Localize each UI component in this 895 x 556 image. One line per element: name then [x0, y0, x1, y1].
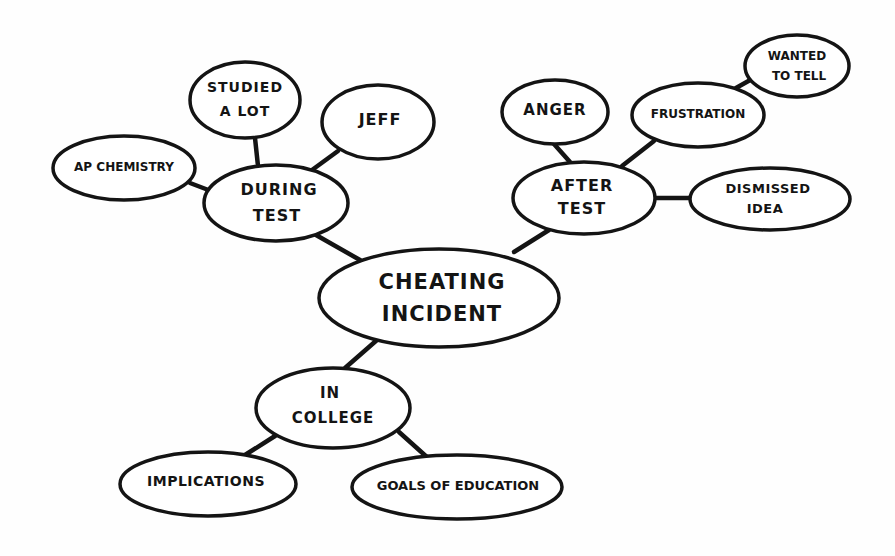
node-shape [190, 62, 300, 138]
edge-center-in-college [345, 340, 377, 368]
node-label-line-2: TO TELL [772, 69, 827, 83]
node-label-line-1: DISMISSED [725, 181, 810, 196]
edge-center-during-test [316, 235, 360, 260]
node-cheating-incident[interactable]: CHEATING INCIDENT [319, 249, 559, 347]
edge-in-college-implications [245, 436, 275, 455]
node-label-line-1: AFTER [551, 176, 613, 195]
edge-center-after-test [514, 230, 549, 252]
node-label-line-2: COLLEGE [292, 409, 375, 427]
node-label-line-2: TEST [253, 206, 301, 225]
node-label-line-2: INCIDENT [382, 302, 502, 326]
node-label: FRUSTRATION [651, 107, 746, 121]
node-label: GOALS OF EDUCATION [377, 478, 540, 493]
node-label-line-1: DURING [240, 180, 317, 199]
node-label-line-1: CHEATING [379, 270, 506, 294]
node-anger[interactable]: ANGER [502, 80, 608, 144]
node-label-line-2: A LOT [220, 103, 271, 119]
node-jeff[interactable]: JEFF [322, 85, 434, 159]
mind-map-canvas: CHEATING INCIDENT DURING TEST AP CHEMIST… [0, 0, 895, 556]
node-label: ANGER [523, 101, 586, 119]
edge-in-college-goals-of-education [399, 432, 428, 458]
mind-map-diagram: CHEATING INCIDENT DURING TEST AP CHEMIST… [0, 0, 895, 556]
edge-during-test-jeff [312, 151, 338, 170]
node-label: AP CHEMISTRY [74, 160, 174, 174]
node-label: IMPLICATIONS [147, 473, 265, 489]
node-dismissed-idea[interactable]: DISMISSED IDEA [690, 168, 850, 230]
edge-after-test-anger [554, 144, 570, 162]
node-frustration[interactable]: FRUSTRATION [632, 83, 764, 147]
node-during-test[interactable]: DURING TEST [204, 165, 348, 241]
node-after-test[interactable]: AFTER TEST [513, 162, 655, 234]
node-wanted-to-tell[interactable]: WANTED TO TELL [745, 35, 849, 97]
node-label-line-2: TEST [558, 199, 606, 218]
node-label-line-1: IN [320, 384, 340, 402]
node-in-college[interactable]: IN COLLEGE [256, 368, 410, 448]
node-label-line-1: STUDIED [207, 79, 283, 95]
node-shape [690, 168, 850, 230]
node-label-line-1: WANTED [768, 49, 826, 63]
node-shape [745, 35, 849, 97]
edge-after-test-frustration [622, 141, 654, 166]
node-studied-a-lot[interactable]: STUDIED A LOT [190, 62, 300, 138]
node-shape [204, 165, 348, 241]
node-shape [319, 249, 559, 347]
node-goals-of-education[interactable]: GOALS OF EDUCATION [352, 455, 562, 519]
node-label: JEFF [358, 110, 402, 129]
node-implications[interactable]: IMPLICATIONS [120, 452, 296, 516]
edge-during-test-studied-a-lot [255, 138, 258, 166]
node-label-line-2: IDEA [747, 201, 784, 216]
node-ap-chemistry[interactable]: AP CHEMISTRY [53, 136, 195, 200]
